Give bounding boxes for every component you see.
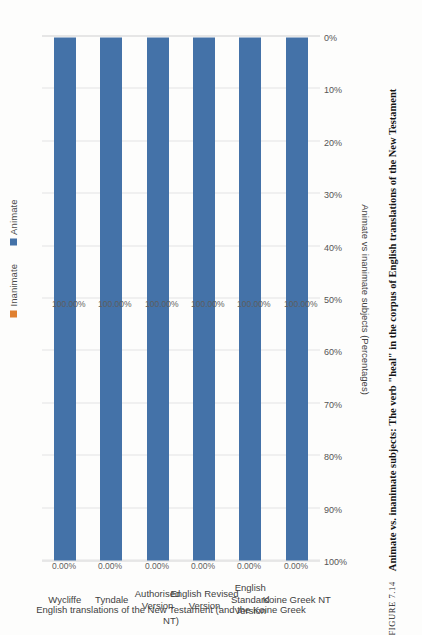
legend-swatch-animate — [10, 238, 17, 245]
bar-label-animate: 100.00% — [52, 299, 86, 309]
scanned-page: Inanimate Animate 0.00%100.00%0.00%100.0… — [0, 0, 422, 635]
value-axis-tick: 20% — [324, 137, 342, 147]
value-axis-tick: 0% — [324, 32, 337, 42]
plot-area: 0.00%100.00%0.00%100.00%0.00%100.00%0.00… — [42, 37, 320, 561]
value-axis-tick: 90% — [324, 504, 342, 514]
figure-number: FIGURE 7.14 — [386, 581, 397, 635]
bar-segment-animate[interactable]: 100.00% — [147, 37, 169, 560]
bar-label-animate: 100.00% — [284, 299, 318, 309]
figure-caption: FIGURE 7.14 Animate vs. inanimate subjec… — [386, 31, 399, 635]
bar-segment-animate[interactable]: 100.00% — [193, 37, 215, 560]
bar-group[interactable]: 0.00%100.00% — [239, 37, 261, 560]
bar-group[interactable]: 0.00%100.00% — [286, 37, 308, 560]
bar-label-animate: 100.00% — [237, 299, 271, 309]
value-axis-tick: 50% — [324, 294, 342, 304]
bar-label-animate: 100.00% — [145, 299, 179, 309]
value-axis-title: Animate vs inanimate subjects (Percentag… — [360, 37, 371, 561]
category-axis-title: English translations of the New Testamen… — [32, 603, 310, 625]
bar-segment-animate[interactable]: 100.00% — [286, 37, 308, 560]
bar-group[interactable]: 0.00%100.00% — [100, 37, 122, 560]
value-axis-tick: 100% — [324, 556, 347, 566]
value-axis-tick: 80% — [324, 451, 342, 461]
gridline — [42, 35, 320, 36]
value-axis-tick: 40% — [324, 242, 342, 252]
value-axis-tick: 70% — [324, 399, 342, 409]
bar-segment-animate[interactable]: 100.00% — [54, 37, 76, 560]
chart-legend: Inanimate Animate — [8, 199, 19, 317]
bar-segment-animate[interactable]: 100.00% — [100, 37, 122, 560]
value-axis: 100%90%80%70%60%50%40%30%20%10%0% — [322, 37, 356, 561]
value-axis-tick: 60% — [324, 346, 342, 356]
bar-group[interactable]: 0.00%100.00% — [147, 37, 169, 560]
plot-canvas: 0.00%100.00%0.00%100.00%0.00%100.00%0.00… — [42, 37, 320, 561]
bar-series-container: 0.00%100.00%0.00%100.00%0.00%100.00%0.00… — [42, 37, 320, 560]
bar-group[interactable]: 0.00%100.00% — [193, 37, 215, 560]
value-axis-tick: 30% — [324, 189, 342, 199]
value-axis-tick: 10% — [324, 84, 342, 94]
rotated-figure-container: Inanimate Animate 0.00%100.00%0.00%100.0… — [0, 0, 422, 635]
figure-caption-text: Animate vs. inanimate subjects: The verb… — [386, 88, 399, 571]
bar-segment-animate[interactable]: 100.00% — [239, 37, 261, 560]
legend-item-animate: Animate — [8, 199, 19, 246]
bar-label-animate: 100.00% — [191, 299, 225, 309]
legend-label-inanimate: Inanimate — [8, 263, 19, 306]
chart-figure: Inanimate Animate 0.00%100.00%0.00%100.0… — [0, 0, 422, 635]
bar-group[interactable]: 0.00%100.00% — [54, 37, 76, 560]
legend-label-animate: Animate — [8, 199, 19, 235]
legend-swatch-inanimate — [10, 310, 17, 317]
bar-label-animate: 100.00% — [98, 299, 132, 309]
legend-item-inanimate: Inanimate — [8, 263, 19, 317]
